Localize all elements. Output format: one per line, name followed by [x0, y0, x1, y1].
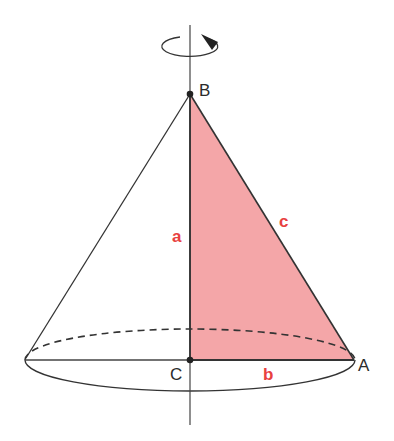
point-b-label: B [199, 82, 210, 99]
side-b-label: b [263, 366, 273, 383]
cone-left-slant [26, 94, 190, 358]
point-a-label: A [358, 357, 369, 374]
point-c-label: C [170, 366, 182, 383]
cone-svg [0, 0, 394, 441]
cone-diagram: B C A a b c [0, 0, 394, 441]
side-c-label: c [279, 213, 288, 230]
point-c-dot [187, 357, 194, 364]
side-a-label: a [172, 228, 181, 245]
point-b-dot [187, 91, 194, 98]
